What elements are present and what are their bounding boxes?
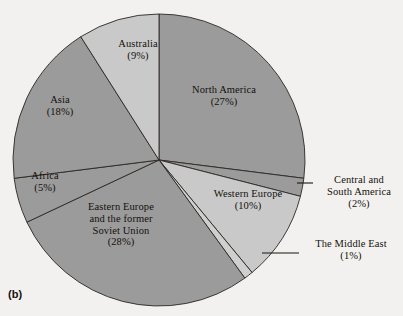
slice-label-africa: Africa (5%): [11, 170, 79, 194]
slice-label-name: Asia: [24, 94, 96, 106]
slice-label-line3: Soviet Union: [58, 225, 184, 237]
slice-label-percent: (2%): [316, 198, 402, 210]
slice-label-percent: (10%): [196, 200, 300, 212]
slice-label-asia: Asia (18%): [24, 94, 96, 118]
slice-label-percent: (27%): [176, 96, 272, 108]
slice-label-line1: Central and: [316, 174, 402, 186]
slice-label-line2: and the former: [58, 213, 184, 225]
slice-label-percent: (28%): [58, 236, 184, 248]
slice-label-name: Africa: [11, 170, 79, 182]
slice-label-line1: Eastern Europe: [58, 201, 184, 213]
slice-label-percent: (9%): [95, 50, 181, 62]
slice-label-line2: South America: [316, 186, 402, 198]
slice-label-percent: (5%): [11, 182, 79, 194]
slice-label-central-south-america: Central and South America (2%): [316, 174, 402, 209]
pie-chart-graphic: [0, 0, 403, 316]
slice-label-eastern-europe: Eastern Europe and the former Soviet Uni…: [58, 201, 184, 248]
slice-label-middle-east: The Middle East (1%): [302, 238, 400, 262]
pie-chart-figure: North America (27%) Australia (9%) Asia …: [0, 0, 403, 316]
slice-label-name: Western Europe: [196, 188, 300, 200]
slice-label-percent: (18%): [24, 106, 96, 118]
slice-label-name: Australia: [95, 38, 181, 50]
slice-label-western-europe: Western Europe (10%): [196, 188, 300, 212]
slice-label-north-america: North America (27%): [176, 84, 272, 108]
slice-label-australia: Australia (9%): [95, 38, 181, 62]
slice-label-name: North America: [176, 84, 272, 96]
slice-label-percent: (1%): [302, 250, 400, 262]
slice-label-name: The Middle East: [302, 238, 400, 250]
figure-caption: (b): [8, 288, 22, 300]
